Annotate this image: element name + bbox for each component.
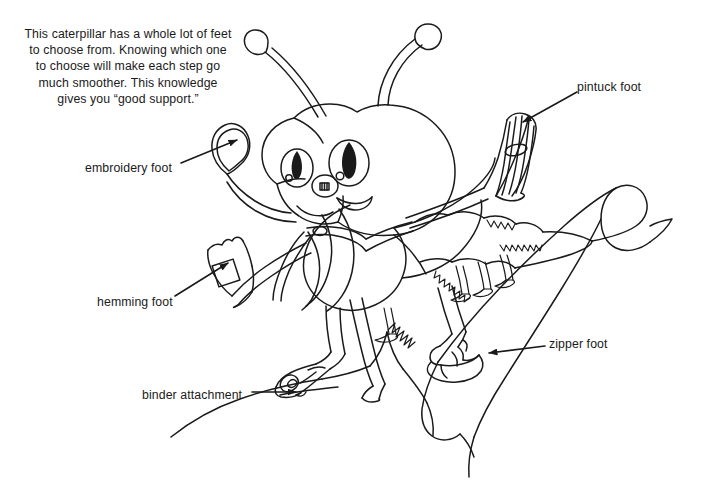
- nose: [312, 175, 338, 197]
- caption-line: to choose will make each step go: [12, 58, 244, 74]
- caption-line: to choose from. Knowing which one: [12, 42, 244, 58]
- callout-label-embroidery-foot: embroidery foot: [85, 161, 172, 175]
- callout-label-hemming-foot: hemming foot: [97, 295, 173, 309]
- leg-binder: [316, 306, 345, 369]
- caption-line: much smoother. This knowledge: [12, 75, 244, 91]
- leg-mid-left: [350, 298, 385, 402]
- caterpillar-body: [302, 158, 592, 311]
- callout-label-zipper-foot: zipper foot: [549, 337, 608, 351]
- caption-line: gives you “good support.”: [12, 91, 244, 107]
- arrow-hemming: [175, 263, 228, 296]
- draped-fabric: [422, 185, 672, 477]
- antenna-left: [244, 30, 326, 117]
- embroidery-foot-arm: [212, 124, 296, 222]
- illustration-page: This caterpillar has a whole lot of feet…: [0, 0, 701, 492]
- arrow-embroidery: [181, 140, 237, 163]
- zipper-foot-shoe: [427, 340, 482, 382]
- callout-label-binder-attachment: binder attachment: [142, 388, 242, 402]
- arrow-pintuck: [523, 92, 577, 122]
- antenna-right: [378, 24, 441, 106]
- leg-zipper: [438, 286, 466, 347]
- callout-arrows: [175, 92, 577, 392]
- arrow-zipper: [489, 346, 545, 353]
- caption-line: This caterpillar has a whole lot of feet: [12, 26, 244, 42]
- caption-text: This caterpillar has a whole lot of feet…: [12, 26, 244, 107]
- sewing-needle: [273, 222, 413, 301]
- pintuck-foot-arm: [406, 113, 536, 228]
- hemming-foot-arm: [208, 237, 311, 307]
- eye-left: [281, 149, 313, 187]
- callout-label-pintuck-foot: pintuck foot: [577, 80, 641, 94]
- ground-fabric: [171, 332, 433, 437]
- zigzag-seam: [388, 323, 415, 348]
